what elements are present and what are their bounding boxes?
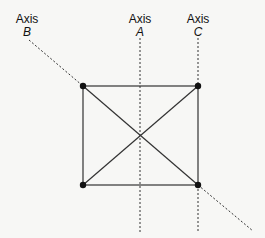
axis-b-name: B	[12, 26, 42, 39]
axis-b-line-lower	[198, 185, 253, 231]
axis-c-label: Axis C	[183, 13, 213, 39]
axis-b-label: Axis B	[12, 13, 42, 39]
axis-a-name: A	[125, 26, 155, 39]
vertex-dot-bottom-left	[80, 182, 86, 188]
vertex-dot-top-left	[80, 83, 86, 89]
symmetry-diagram: Axis B Axis A Axis C	[0, 0, 265, 238]
axis-b-word: Axis	[16, 12, 39, 26]
axis-a-word: Axis	[129, 12, 152, 26]
axis-b-line	[29, 40, 83, 86]
vertex-dot-bottom-right	[195, 182, 201, 188]
vertex-dot-top-right	[195, 83, 201, 89]
axis-c-name: C	[183, 26, 213, 39]
axis-c-word: Axis	[187, 12, 210, 26]
axis-a-label: Axis A	[125, 13, 155, 39]
